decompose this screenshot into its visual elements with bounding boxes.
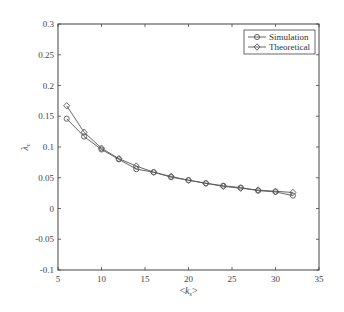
y-tick-label: 0.25 (38, 50, 54, 60)
legend-entry: Simulation (269, 32, 309, 42)
line-chart: 5101520253035-0.1-0.0500.050.10.150.20.2… (0, 0, 344, 312)
plot-area (58, 24, 319, 270)
y-tick-label: 0.1 (43, 142, 54, 152)
x-tick-label: 35 (315, 274, 325, 284)
y-tick-label: 0.05 (38, 173, 54, 183)
y-axis-label: λc (19, 143, 31, 151)
y-tick-label: 0 (50, 204, 55, 214)
x-tick-label: 10 (97, 274, 107, 284)
legend-entry: Theoretical (269, 42, 310, 52)
y-tick-label: 0.2 (43, 81, 54, 91)
legend: SimulationTheoretical (244, 30, 315, 54)
y-tick-label: -0.1 (40, 265, 54, 275)
x-tick-label: 25 (228, 274, 238, 284)
series-simulation (64, 116, 295, 198)
x-tick-label: 20 (184, 274, 194, 284)
y-tick-label: 0.3 (43, 19, 55, 29)
x-tick-label: 5 (56, 274, 61, 284)
y-tick-label: -0.05 (35, 234, 54, 244)
x-axis-label: <ks> (179, 285, 197, 297)
x-tick-label: 15 (141, 274, 151, 284)
x-tick-label: 30 (271, 274, 281, 284)
y-tick-label: 0.15 (38, 111, 54, 121)
